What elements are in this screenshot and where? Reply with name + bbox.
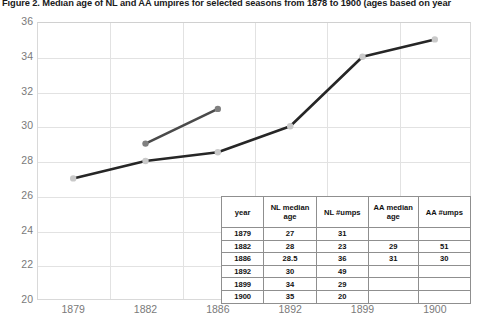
table-header-cell: AA median age: [368, 197, 418, 228]
table-row: 18792731: [222, 228, 471, 241]
table-cell: 35: [264, 290, 316, 303]
gridline-horizontal: [38, 127, 470, 128]
table-cell: 28: [264, 240, 316, 253]
y-axis: 202224262830323436: [0, 0, 33, 328]
table-cell: 30: [264, 265, 316, 278]
table-cell: 28.5: [264, 253, 316, 266]
table-cell: [368, 228, 418, 241]
table-header-cell: NL median age: [264, 197, 316, 228]
table-header-cell: NL #umps: [316, 197, 368, 228]
table-cell: 34: [264, 278, 316, 291]
table-header-cell: year: [222, 197, 264, 228]
y-axis-tick-label: 24: [3, 225, 33, 236]
table-cell: [418, 228, 470, 241]
y-axis-tick-label: 20: [3, 294, 33, 305]
table-cell: 29: [368, 240, 418, 253]
table-cell: [418, 265, 470, 278]
table-cell: [368, 278, 418, 291]
table-cell: 1899: [222, 278, 264, 291]
gridline-horizontal: [38, 93, 470, 94]
table-cell: 31: [316, 228, 368, 241]
table-header-cell: AA #umps: [418, 197, 470, 228]
y-axis-tick-label: 26: [3, 190, 33, 201]
table-cell: 23: [316, 240, 368, 253]
table-cell: 51: [418, 240, 470, 253]
table-cell: [418, 290, 470, 303]
table-row: 18923049: [222, 265, 471, 278]
table-cell: 49: [316, 265, 368, 278]
x-axis-tick-label: 1899: [323, 303, 403, 315]
table-cell: 1886: [222, 253, 264, 266]
table-cell: 1900: [222, 290, 264, 303]
table-cell: 27: [264, 228, 316, 241]
table-cell: 1892: [222, 265, 264, 278]
table-cell: 31: [368, 253, 418, 266]
y-axis-tick-label: 22: [3, 259, 33, 270]
y-axis-tick-label: 28: [3, 155, 33, 166]
table-row: 188628.5363130: [222, 253, 471, 266]
data-table: year NL median age NL #umps AA median ag…: [221, 196, 471, 304]
gridline-horizontal: [38, 162, 470, 163]
table-cell: 29: [316, 278, 368, 291]
table-cell: 1882: [222, 240, 264, 253]
x-axis-tick-label: 1900: [395, 303, 475, 315]
x-axis-tick-label: 1892: [250, 303, 330, 315]
x-axis-tick-label: 1886: [178, 303, 258, 315]
table-cell: 20: [316, 290, 368, 303]
table-cell: 36: [316, 253, 368, 266]
table-cell: 1879: [222, 228, 264, 241]
y-axis-tick-label: 34: [3, 51, 33, 62]
y-axis-tick-label: 30: [3, 120, 33, 131]
y-axis-tick-label: 32: [3, 86, 33, 97]
table-row: 19003520: [222, 290, 471, 303]
x-axis-tick-label: 1879: [33, 303, 113, 315]
table-cell: [418, 278, 470, 291]
table-row: 18993429: [222, 278, 471, 291]
page-title: Figure 2. Median age of NL and AA umpire…: [2, 0, 477, 10]
gridline-horizontal: [38, 58, 470, 59]
gridline-vertical: [110, 23, 111, 299]
x-axis-tick-label: 1882: [106, 303, 186, 315]
table-row: 188228232951: [222, 240, 471, 253]
table-cell: 30: [418, 253, 470, 266]
table-header-row: year NL median age NL #umps AA median ag…: [222, 197, 471, 228]
y-axis-tick-label: 36: [3, 16, 33, 27]
table-cell: [368, 290, 418, 303]
table-cell: [368, 265, 418, 278]
gridline-vertical: [183, 23, 184, 299]
